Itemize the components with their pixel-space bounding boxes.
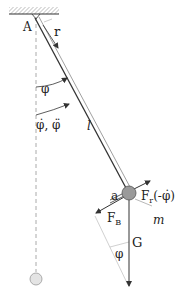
label-friction-force: Fr(-φ̇) [141, 189, 175, 205]
label-a: a [111, 189, 118, 203]
label-phi-dot-ddot: φ̇, φ̈ [36, 118, 60, 132]
construction-lines [95, 216, 129, 285]
label-phi: φ [41, 82, 49, 96]
label-phi-lower: φ [115, 247, 123, 261]
label-gravity: G [132, 235, 142, 250]
pendulum-diagram: A r φ φ̇, φ̈ l a Fr(-φ̇) m FB G φ [0, 0, 191, 299]
label-pivot: A [22, 20, 32, 34]
label-length: l [87, 119, 91, 133]
rest-bob [30, 273, 42, 285]
phi-dot-arc [36, 104, 69, 115]
label-mass: m [153, 213, 164, 227]
label-r: r [54, 24, 61, 39]
ceiling [9, 7, 59, 14]
pendulum-bob [122, 186, 136, 200]
label-inertial-force: FB [107, 211, 121, 227]
pendulum-rod [35, 17, 130, 188]
